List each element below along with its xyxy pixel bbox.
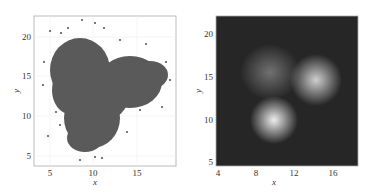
svg-text:5: 5 <box>27 151 32 161</box>
peak-right <box>290 54 342 106</box>
svg-text:15: 15 <box>22 71 32 81</box>
svg-text:4: 4 <box>216 168 221 178</box>
figure: 5 10 15 5 10 15 20 x y 4 8 12 16 5 10 15… <box>0 0 373 196</box>
svg-text:16: 16 <box>329 168 339 178</box>
svg-text:15: 15 <box>133 168 143 178</box>
svg-text:15: 15 <box>204 72 214 82</box>
density-heatmap: 4 8 12 16 5 10 15 20 x y <box>193 16 358 187</box>
x-axis-label: x <box>271 177 276 187</box>
y-axis-ticks: 5 10 15 20 <box>204 29 214 167</box>
svg-text:5: 5 <box>209 157 214 167</box>
svg-text:20: 20 <box>22 32 32 42</box>
peak-upper-left <box>240 44 300 100</box>
svg-text:10: 10 <box>22 111 32 121</box>
scatter-plot: 5 10 15 5 10 15 20 x y <box>11 16 176 187</box>
y-axis-label: y <box>193 89 203 94</box>
svg-text:12: 12 <box>290 168 299 178</box>
svg-text:5: 5 <box>48 168 53 178</box>
svg-text:8: 8 <box>254 168 259 178</box>
y-axis-ticks: 5 10 15 20 <box>22 32 32 161</box>
svg-text:20: 20 <box>204 29 214 39</box>
peak-bottom <box>250 96 298 144</box>
x-axis-label: x <box>92 177 97 187</box>
svg-text:10: 10 <box>204 115 214 125</box>
y-axis-label: y <box>11 89 21 94</box>
x-axis-ticks: 4 8 12 16 <box>216 168 338 178</box>
